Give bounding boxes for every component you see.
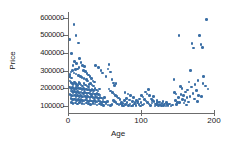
data-point: [191, 42, 194, 45]
data-point: [138, 98, 141, 101]
data-point: [147, 88, 150, 91]
x-axis-line: [69, 113, 215, 114]
y-tick-label: 600000: [20, 13, 64, 22]
data-point: [197, 94, 200, 97]
data-point: [181, 87, 184, 90]
data-point: [111, 103, 114, 106]
data-point: [143, 103, 146, 106]
data-point: [189, 95, 192, 98]
data-point: [75, 34, 78, 37]
data-point: [181, 98, 184, 101]
data-point: [177, 96, 180, 99]
y-tick-label: 100000: [20, 101, 64, 110]
data-point: [192, 47, 195, 50]
scatter-chart-figure: 100000200000300000400000500000600000 010…: [0, 0, 236, 151]
data-point: [93, 81, 96, 84]
data-point: [190, 86, 193, 89]
data-point: [189, 69, 192, 72]
data-point: [171, 104, 174, 107]
data-point: [175, 103, 178, 106]
data-point: [83, 65, 86, 68]
data-point: [74, 68, 77, 71]
data-point: [101, 72, 104, 75]
x-tick-label: 0: [48, 116, 88, 125]
data-point: [115, 82, 118, 85]
data-point: [98, 88, 101, 91]
data-point: [207, 88, 210, 91]
y-tick-label: 500000: [20, 30, 64, 39]
data-point: [103, 96, 106, 99]
data-point: [185, 104, 188, 107]
data-point: [186, 96, 189, 99]
data-point: [198, 34, 201, 37]
data-point: [202, 75, 205, 78]
data-point: [200, 95, 203, 98]
data-point: [184, 91, 187, 94]
data-point: [70, 52, 73, 55]
y-tick-label: 200000: [20, 83, 64, 92]
data-point: [182, 94, 185, 97]
y-axis-line: [68, 12, 69, 115]
data-point: [187, 101, 190, 104]
data-point: [192, 92, 195, 95]
data-point: [135, 104, 138, 107]
data-point: [152, 95, 155, 98]
data-point: [178, 34, 181, 37]
data-point: [78, 57, 81, 60]
data-point: [175, 93, 178, 96]
data-point: [173, 78, 176, 81]
data-point: [75, 62, 78, 65]
x-axis-title: Age: [0, 129, 236, 138]
data-point: [174, 99, 177, 102]
x-tick-label: 200: [194, 116, 234, 125]
data-point: [149, 104, 152, 107]
data-point: [197, 79, 200, 82]
y-tick-label: 300000: [20, 66, 64, 75]
x-tick-label: 100: [121, 116, 161, 125]
data-point: [201, 46, 204, 49]
data-point: [202, 82, 205, 85]
data-point: [194, 83, 197, 86]
data-point: [109, 71, 112, 74]
y-tick-label: 400000: [20, 48, 64, 57]
data-point: [124, 91, 127, 94]
data-point: [107, 68, 110, 71]
data-point: [196, 100, 199, 103]
data-point: [195, 89, 198, 92]
plot-area: [68, 14, 214, 113]
data-point: [70, 77, 73, 80]
data-point: [111, 78, 114, 81]
data-point: [204, 85, 207, 88]
data-point: [105, 75, 108, 78]
data-point: [73, 23, 76, 26]
data-point: [193, 98, 196, 101]
data-point: [178, 101, 181, 104]
data-point: [108, 63, 111, 66]
y-axis-title: Price: [8, 31, 17, 91]
data-point: [188, 81, 191, 84]
data-point: [77, 42, 80, 45]
data-point: [148, 94, 151, 97]
data-point: [205, 18, 208, 21]
data-point: [72, 64, 75, 67]
